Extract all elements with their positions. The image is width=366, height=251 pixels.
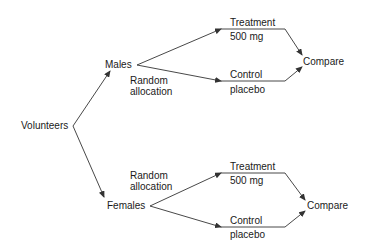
females-allocation-line1: Random <box>130 170 168 181</box>
study-design-diagram: Volunteers Males Random allocation Treat… <box>0 0 366 251</box>
males-allocation-line1: Random <box>130 75 168 86</box>
males-control-detail: placebo <box>230 84 265 95</box>
arrow-volunteers-to-males <box>73 71 110 126</box>
node-females: Females <box>107 200 145 211</box>
arrow-volunteers-to-females <box>73 126 104 197</box>
females-compare: Compare <box>307 200 348 211</box>
males-control-label: Control <box>230 69 262 80</box>
females-control-detail: placebo <box>230 229 265 240</box>
males-allocation-line2: allocation <box>130 86 172 97</box>
node-males: Males <box>105 59 132 70</box>
males-compare: Compare <box>303 56 344 67</box>
arrow-males-to-treatment <box>137 29 221 65</box>
arrow-females-to-control <box>150 206 221 227</box>
males-treatment-dose: 500 mg <box>230 31 263 42</box>
females-treatment-dose: 500 mg <box>230 175 263 186</box>
females-treatment-label: Treatment <box>230 161 275 172</box>
females-allocation-line2: allocation <box>130 181 172 192</box>
node-volunteers: Volunteers <box>21 120 68 131</box>
females-control-label: Control <box>230 215 262 226</box>
males-treatment-label: Treatment <box>230 17 275 28</box>
